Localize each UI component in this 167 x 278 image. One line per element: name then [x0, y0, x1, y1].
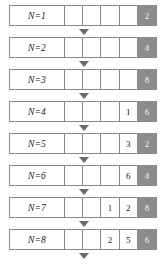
digit-cell [101, 134, 119, 153]
row-label: N=5 [10, 134, 65, 153]
digit-cell: 5 [120, 230, 138, 249]
digit-cell [65, 166, 83, 185]
row-block: N=12 [0, 5, 167, 37]
digit-cell [120, 70, 138, 89]
digit-cell-highlighted: 8 [138, 198, 156, 217]
digit-cell [101, 38, 119, 57]
row-block: N=8256 [0, 229, 167, 261]
row-block: N=24 [0, 37, 167, 69]
arrow-container [0, 250, 167, 261]
row-label: N=8 [10, 230, 65, 249]
arrow-container [0, 58, 167, 69]
digit-cell [83, 230, 101, 249]
table-row: N=8256 [9, 229, 157, 250]
digit-cell: 2 [101, 230, 119, 249]
digit-cell [83, 198, 101, 217]
digit-cell-highlighted: 2 [138, 6, 156, 25]
row-block: N=7128 [0, 197, 167, 229]
powers-of-two-diagram: N=12N=24N=38N=416N=532N=664N=7128N=8256 [0, 0, 167, 278]
row-block: N=38 [0, 69, 167, 101]
digit-cell [83, 38, 101, 57]
digit-cell-highlighted: 8 [138, 70, 156, 89]
row-block: N=532 [0, 133, 167, 165]
digit-cell [101, 6, 119, 25]
triangle-down-icon [79, 61, 89, 67]
digit-cell [65, 198, 83, 217]
row-label: N=4 [10, 102, 65, 121]
arrow-container [0, 218, 167, 229]
digit-cell [83, 166, 101, 185]
digit-cell-highlighted: 6 [138, 102, 156, 121]
digit-cell-highlighted: 4 [138, 38, 156, 57]
digit-cell [65, 102, 83, 121]
table-row: N=416 [9, 101, 157, 122]
arrow-container [0, 186, 167, 197]
digit-cell [65, 38, 83, 57]
digit-cell: 2 [120, 198, 138, 217]
triangle-down-icon [79, 189, 89, 195]
table-row: N=12 [9, 5, 157, 26]
row-label: N=3 [10, 70, 65, 89]
digit-cell-highlighted: 6 [138, 230, 156, 249]
table-row: N=24 [9, 37, 157, 58]
arrow-container [0, 154, 167, 165]
digit-cell [83, 70, 101, 89]
digit-cell [65, 134, 83, 153]
triangle-down-icon [79, 253, 89, 259]
digit-cell: 3 [120, 134, 138, 153]
table-row: N=7128 [9, 197, 157, 218]
digit-cell-highlighted: 2 [138, 134, 156, 153]
digit-cell: 1 [101, 198, 119, 217]
row-block: N=416 [0, 101, 167, 133]
triangle-down-icon [79, 125, 89, 131]
digit-cell [83, 6, 101, 25]
row-label: N=1 [10, 6, 65, 25]
row-label: N=6 [10, 166, 65, 185]
row-label: N=2 [10, 38, 65, 57]
triangle-down-icon [79, 29, 89, 35]
digit-cell: 1 [120, 102, 138, 121]
triangle-down-icon [79, 157, 89, 163]
digit-cell [120, 38, 138, 57]
table-row: N=664 [9, 165, 157, 186]
row-label: N=7 [10, 198, 65, 217]
digit-cell-highlighted: 4 [138, 166, 156, 185]
digit-cell [83, 134, 101, 153]
row-block: N=664 [0, 165, 167, 197]
table-row: N=532 [9, 133, 157, 154]
digit-cell [83, 102, 101, 121]
digit-cell: 6 [120, 166, 138, 185]
arrow-container [0, 90, 167, 101]
triangle-down-icon [79, 221, 89, 227]
digit-cell [101, 70, 119, 89]
triangle-down-icon [79, 93, 89, 99]
digit-cell [65, 230, 83, 249]
arrow-container [0, 122, 167, 133]
arrow-container [0, 26, 167, 37]
digit-cell [120, 6, 138, 25]
digit-cell [65, 6, 83, 25]
digit-cell [65, 70, 83, 89]
digit-cell [101, 166, 119, 185]
table-row: N=38 [9, 69, 157, 90]
digit-cell [101, 102, 119, 121]
